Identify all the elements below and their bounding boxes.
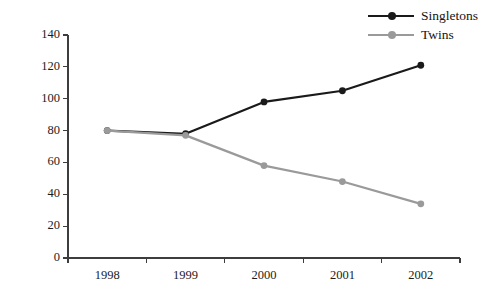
y-axis-tick-label: 100: [12, 91, 60, 106]
series-marker-singletons: [261, 99, 268, 106]
series-marker-twins: [182, 132, 189, 139]
legend-marker-twins: [388, 31, 396, 39]
y-axis-tick-label: 40: [12, 186, 60, 201]
x-axis-tick-label: 2001: [312, 268, 372, 283]
legend-label-twins: Twins: [421, 28, 454, 42]
chart-series-group: [104, 62, 424, 207]
y-axis-tick-label: 60: [12, 154, 60, 169]
y-axis-tick-label: 140: [12, 27, 60, 42]
x-axis-tick-label: 2000: [234, 268, 294, 283]
legend-item-twins: Twins: [368, 27, 478, 43]
y-axis-tick-label: 0: [12, 250, 60, 265]
series-marker-singletons: [417, 62, 424, 69]
x-axis-tick-label: 2002: [391, 268, 451, 283]
series-marker-singletons: [339, 87, 346, 94]
y-axis-tick-label: 80: [12, 123, 60, 138]
series-marker-twins: [261, 162, 268, 169]
x-axis-tick-label: 1999: [156, 268, 216, 283]
chart-legend: Singletons Twins: [368, 8, 478, 43]
y-axis-tick-label: 120: [12, 59, 60, 74]
series-marker-twins: [417, 200, 424, 207]
x-axis-tick-label: 1998: [77, 268, 137, 283]
chart-plot-area: [0, 0, 504, 296]
series-marker-twins: [339, 178, 346, 185]
series-marker-twins: [104, 127, 111, 134]
legend-label-singletons: Singletons: [421, 9, 478, 23]
chart-axes: [63, 35, 460, 263]
legend-swatch-singletons: [368, 10, 414, 22]
line-chart: 020406080100120140 19981999200020012002 …: [0, 0, 504, 296]
legend-item-singletons: Singletons: [368, 8, 478, 24]
legend-marker-singletons: [388, 12, 396, 20]
y-axis-tick-label: 20: [12, 218, 60, 233]
legend-swatch-twins: [368, 29, 414, 41]
